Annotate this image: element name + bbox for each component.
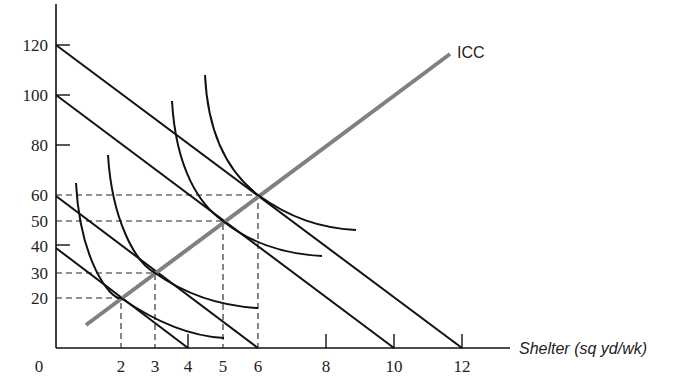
x-tick-labels: 0 2 3 4 5 6 8 10 12 [35,357,471,376]
y-tick-labels: 120 100 80 60 50 40 30 20 [23,36,49,308]
svg-text:30: 30 [31,264,48,283]
icc-label: ICC [457,44,485,61]
x-ticks [188,334,462,348]
icc-chart: ICC 120 100 80 60 50 40 30 20 0 2 3 4 5 … [0,0,675,378]
svg-text:6: 6 [254,357,263,376]
icc-line [86,54,450,325]
svg-text:2: 2 [117,357,126,376]
svg-text:0: 0 [35,357,44,376]
svg-text:5: 5 [219,357,228,376]
svg-text:10: 10 [386,357,403,376]
svg-text:50: 50 [31,212,48,231]
svg-text:80: 80 [31,136,48,155]
svg-text:12: 12 [454,357,471,376]
svg-text:120: 120 [23,36,49,55]
y-ticks [56,45,70,245]
svg-text:60: 60 [31,186,48,205]
indifference-curve-4 [205,75,356,230]
svg-text:100: 100 [23,86,49,105]
svg-text:40: 40 [31,237,48,256]
indifference-curve-3 [172,101,322,256]
indifference-curves [76,75,356,338]
svg-text:8: 8 [322,357,331,376]
x-axis-title: Shelter (sq yd/wk) [519,340,647,357]
svg-text:20: 20 [31,289,48,308]
svg-text:4: 4 [184,357,193,376]
svg-text:3: 3 [151,357,160,376]
